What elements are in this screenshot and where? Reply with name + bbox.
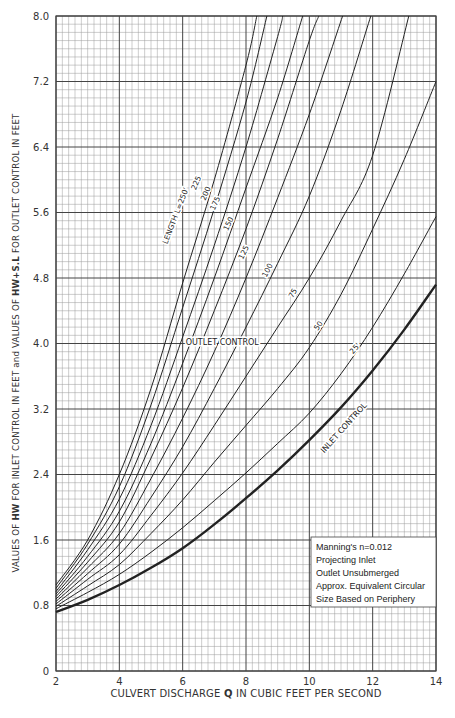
x-tick-label: 4 bbox=[116, 676, 122, 687]
curve-200 bbox=[56, 16, 283, 592]
annotation-100: 100 bbox=[260, 262, 275, 279]
annotation-length-l-250: LENGTH L=250' bbox=[161, 186, 191, 245]
annotation-225: 225 bbox=[189, 174, 203, 191]
x-tick-label: 8 bbox=[243, 676, 249, 687]
annotation-200: 200 bbox=[199, 185, 213, 202]
x-tick-label: 6 bbox=[179, 676, 185, 687]
curve-l-250 bbox=[56, 16, 257, 585]
legend-line: Manning's n=0.012 bbox=[316, 542, 392, 552]
y-tick-label: 0 bbox=[43, 666, 49, 677]
y-tick-label: 1.6 bbox=[33, 535, 49, 546]
y-tick-label: 3.2 bbox=[33, 404, 49, 415]
legend-box: Manning's n=0.012Projecting InletOutlet … bbox=[311, 537, 436, 607]
y-tick-label: 4.8 bbox=[33, 273, 49, 284]
legend-line: Outlet Unsubmerged bbox=[316, 568, 399, 578]
y-tick-label: 8.0 bbox=[33, 11, 49, 22]
legend-line: Approx. Equivalent Circular bbox=[316, 581, 425, 591]
curve-100 bbox=[56, 16, 371, 601]
curve-150 bbox=[56, 16, 319, 597]
annotation-50: 50 bbox=[312, 319, 325, 332]
x-tick-label: 2 bbox=[53, 676, 59, 687]
x-tick-label: 10 bbox=[303, 676, 316, 687]
culvert-chart: LENGTH L=250'225200175150125100755025'OU… bbox=[0, 0, 455, 718]
y-tick-label: 2.4 bbox=[33, 469, 49, 480]
legend-line: Projecting Inlet bbox=[316, 555, 376, 565]
annotation-outlet-control: OUTLET CONTROL bbox=[186, 338, 260, 347]
y-tick-label: 6.4 bbox=[33, 142, 49, 153]
y-tick-label: 5.6 bbox=[33, 207, 49, 218]
annotation-125: 125 bbox=[237, 244, 251, 261]
legend-line: Size Based on Periphery bbox=[316, 594, 416, 604]
x-tick-label: 12 bbox=[366, 676, 379, 687]
annotation-175: 175 bbox=[208, 195, 222, 212]
curve-125 bbox=[56, 16, 343, 599]
x-axis-label: CULVERT DISCHARGE Q IN CUBIC FEET PER SE… bbox=[110, 688, 381, 699]
x-tick-label: 14 bbox=[430, 676, 443, 687]
y-tick-label: 0.8 bbox=[33, 600, 49, 611]
y-tick-label: 4.0 bbox=[33, 338, 49, 349]
y-axis-label: VALUES OF HW FOR INLET CONTROL IN FEET a… bbox=[11, 113, 21, 573]
y-tick-label: 7.2 bbox=[33, 76, 49, 87]
